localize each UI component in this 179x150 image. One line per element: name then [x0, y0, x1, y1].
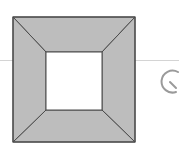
inner-square: [46, 52, 102, 110]
square-frame-diagram: [0, 0, 179, 150]
rotate-icon[interactable]: [158, 66, 179, 96]
